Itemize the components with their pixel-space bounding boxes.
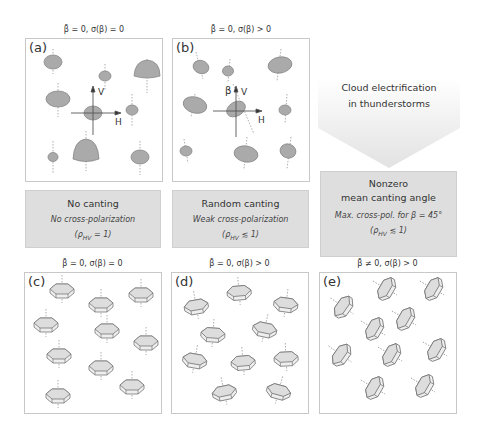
- info-box-nonzero-mean-canting: Nonzero mean canting angle Max. cross-po…: [320, 171, 457, 257]
- panel-d-ice-crystals-random-canting: (d): [171, 272, 309, 414]
- panel-d-title: β̄ = 0, σ(β) > 0: [171, 259, 308, 268]
- ice-crystals-diagram-c: [25, 273, 161, 413]
- arrow-caption: Cloud electrification in thunderstorms: [318, 80, 460, 112]
- info-subtext: Max. cross-pol. for β = 45°: [321, 211, 456, 220]
- panel-d-label: (d): [175, 274, 193, 289]
- panel-c-ice-crystals-no-canting: (c): [24, 272, 162, 414]
- arrow-caption-line2: in thunderstorms: [318, 96, 460, 112]
- panel-b-raindrops-random-canting: (b) β V H: [172, 38, 310, 182]
- info-subtext: Weak cross-polarization: [173, 215, 308, 224]
- panel-a-label: (a): [29, 40, 47, 55]
- ice-crystals-diagram-d: [172, 273, 308, 413]
- raindrops-diagram-a: [26, 39, 162, 181]
- beta-angle-label: β: [225, 85, 231, 96]
- arrow-caption-line1: Cloud electrification: [318, 80, 460, 96]
- rho-hv-value: (ρHV ≲ 1): [321, 226, 456, 237]
- panel-a-raindrops-no-canting: (a) V H: [25, 38, 163, 182]
- info-heading: Random canting: [173, 198, 308, 209]
- info-heading: No canting: [26, 198, 160, 209]
- rho-hv-value: (ρHV ≲ 1): [173, 230, 308, 241]
- panel-c-label: (c): [28, 274, 45, 289]
- rho-hv-value: (ρHV = 1): [26, 230, 160, 241]
- info-heading-line2: mean canting angle: [321, 192, 456, 203]
- panel-b-label: (b): [176, 40, 194, 55]
- panel-e-ice-crystals-mean-canting: (e): [319, 272, 457, 414]
- panel-b-title: β̄ = 0, σ(β) > 0: [172, 25, 310, 34]
- info-box-no-canting: No canting No cross-polarization (ρHV = …: [25, 190, 161, 248]
- panel-c-title: β̄ = 0, σ(β) = 0: [24, 259, 161, 268]
- v-axis-label: V: [241, 87, 247, 97]
- info-subtext: No cross-polarization: [26, 215, 160, 224]
- raindrops-diagram-b: [173, 39, 309, 181]
- info-heading-line1: Nonzero: [321, 178, 456, 189]
- panel-e-title: β̄ ≠ 0, σ(β) > 0: [319, 259, 456, 268]
- panel-e-label: (e): [323, 274, 341, 289]
- v-axis-label: V: [98, 87, 104, 97]
- ice-crystals-diagram-e: [320, 273, 456, 413]
- h-axis-label: H: [115, 117, 122, 127]
- h-axis-label: H: [258, 115, 265, 125]
- info-box-random-canting: Random canting Weak cross-polarization (…: [172, 190, 309, 248]
- panel-a-title: β̄ = 0, σ(β) = 0: [25, 25, 163, 34]
